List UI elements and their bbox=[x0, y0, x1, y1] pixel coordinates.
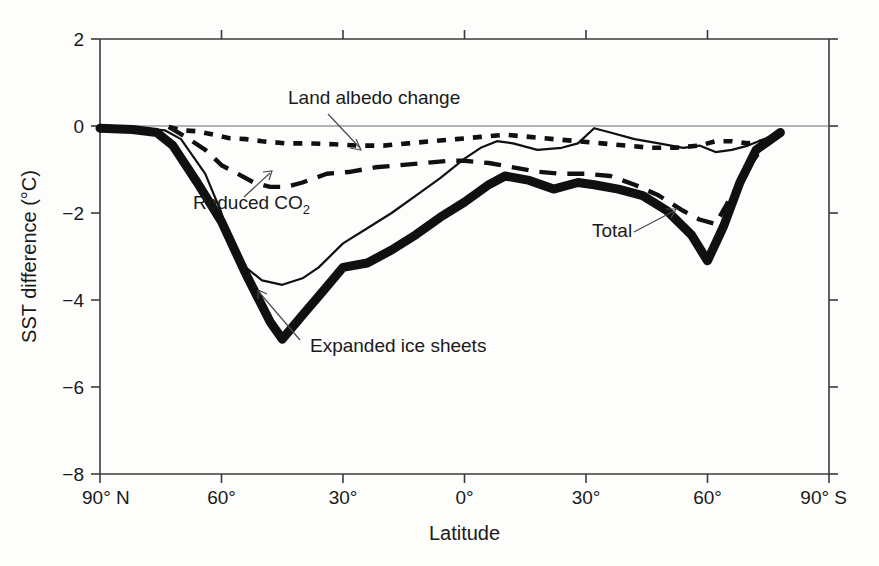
y-tick-label: 2 bbox=[73, 29, 84, 50]
annotation-total: Total bbox=[592, 220, 632, 241]
x-tick-label: 30° bbox=[329, 487, 358, 508]
x-tick-label: 30° bbox=[572, 487, 601, 508]
y-tick-label: 0 bbox=[73, 116, 84, 137]
y-tick-label: −4 bbox=[62, 290, 84, 311]
x-tick-label: 90° S bbox=[800, 487, 847, 508]
annotation-expanded-ice-sheets: Expanded ice sheets bbox=[310, 335, 486, 356]
y-tick-label: −8 bbox=[62, 464, 84, 485]
x-tick-label: 60° bbox=[207, 487, 236, 508]
series-group bbox=[100, 127, 780, 339]
x-tick-label: 60° bbox=[693, 487, 722, 508]
sst-difference-latitude-chart: 20−2−4−6−890° N60°30°0°30°60°90° SLatitu… bbox=[0, 0, 879, 566]
chart-canvas: 20−2−4−6−890° N60°30°0°30°60°90° SLatitu… bbox=[0, 0, 879, 566]
x-tick-label: 90° N bbox=[82, 487, 130, 508]
y-tick-label: −2 bbox=[62, 203, 84, 224]
x-tick-label: 0° bbox=[455, 487, 473, 508]
annotation-land-albedo-change: Land albedo change bbox=[288, 87, 460, 108]
annotation-reduced-co2-subscript: 2 bbox=[303, 202, 310, 217]
annotation-reduced-co2: Reduced CO2 bbox=[193, 192, 310, 217]
y-axis-title: SST difference (°C) bbox=[18, 170, 40, 343]
series-line-land-albedo-change bbox=[169, 127, 781, 148]
annotation-total-leader bbox=[634, 211, 674, 232]
y-tick-label: −6 bbox=[62, 377, 84, 398]
x-axis-title: Latitude bbox=[429, 522, 500, 544]
